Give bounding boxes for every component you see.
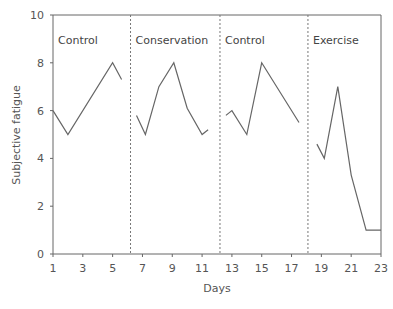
data-series — [53, 63, 381, 230]
x-tick-label: 19 — [314, 262, 328, 275]
x-axis: 1357911131517192123 — [50, 254, 389, 275]
x-tick-label: 11 — [195, 262, 209, 275]
series-line — [226, 63, 299, 135]
y-tick-label: 8 — [37, 57, 44, 70]
y-tick-label: 6 — [37, 105, 44, 118]
x-tick-label: 21 — [344, 262, 358, 275]
x-tick-label: 13 — [225, 262, 239, 275]
x-tick-label: 1 — [50, 262, 57, 275]
phase-dividers — [131, 15, 308, 254]
phase-label: Conservation — [136, 34, 209, 47]
y-tick-label: 10 — [30, 9, 44, 22]
x-axis-title: Days — [203, 282, 231, 295]
x-tick-label: 3 — [79, 262, 86, 275]
phase-label: Exercise — [313, 34, 359, 47]
y-axis: 0246810 — [30, 9, 53, 261]
series-line — [53, 63, 122, 135]
phase-labels: ControlConservationControlExercise — [58, 34, 359, 47]
plot-frame — [53, 15, 381, 254]
x-tick-label: 7 — [139, 262, 146, 275]
y-axis-title: Subjective fatigue — [10, 85, 23, 185]
series-line — [137, 63, 209, 135]
y-tick-label: 4 — [37, 152, 44, 165]
line-chart: 0246810 1357911131517192123 ControlConse… — [0, 0, 393, 309]
series-line — [317, 87, 381, 230]
y-tick-label: 2 — [37, 200, 44, 213]
x-tick-label: 17 — [285, 262, 299, 275]
phase-label: Control — [225, 34, 265, 47]
x-tick-label: 15 — [255, 262, 269, 275]
x-tick-label: 5 — [109, 262, 116, 275]
y-tick-label: 0 — [37, 248, 44, 261]
phase-label: Control — [58, 34, 98, 47]
x-tick-label: 23 — [374, 262, 388, 275]
x-tick-label: 9 — [169, 262, 176, 275]
